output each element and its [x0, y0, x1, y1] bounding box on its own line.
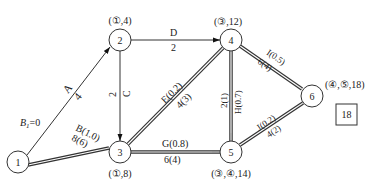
edge-b-labels: B(1.0) 8(6) [70, 122, 102, 150]
edge-a-duration: 4 [71, 90, 84, 102]
edge-g-duration: 6(4) [164, 154, 181, 166]
node-1-annotation: B1=0 [20, 117, 40, 130]
edge-g-name: G(0.8) [162, 138, 188, 150]
network-diagram: A 4 B(1.0) 8(6) 2 C D 2 E(0.2) 4(3) G(0.… [0, 0, 380, 190]
node-5-label: 5 [229, 147, 234, 158]
edge-d-name: D [170, 27, 177, 38]
node-5-annotation: (③,④,14) [211, 168, 251, 180]
edge-h: 2(1) H(0.7) [219, 51, 243, 141]
edge-g: G(0.8) 6(4) [131, 138, 220, 166]
edge-c: 2 C [107, 51, 132, 141]
node-4-label: 4 [229, 35, 234, 46]
edge-c-duration: 2 [107, 92, 118, 97]
node-3-annotation: (①,8) [108, 168, 131, 180]
node-4: 4 [220, 29, 242, 51]
edge-c-name: C [121, 90, 132, 97]
edge-d-duration: 2 [171, 42, 176, 53]
node-3: 3 [109, 141, 131, 163]
edge-i: I(0.5) 6(4) [240, 46, 302, 89]
node-1: 1 [7, 151, 29, 173]
node-2-label: 2 [118, 35, 123, 46]
node-2-annotation: (①,4) [108, 15, 131, 27]
node-4-annotation: (③,12) [214, 16, 242, 28]
edge-h-name: H(0.7) [233, 90, 243, 114]
edge-j: J(0.2) 4(2) [240, 103, 303, 145]
total-duration-box: 18 [336, 104, 357, 125]
edge-e: E(0.2) 4(3) [128, 48, 223, 144]
node-6-annotation: (④,⑤,18) [325, 79, 365, 91]
node-6: 6 [301, 85, 323, 107]
edge-d: D 2 [131, 27, 220, 53]
edge-h-duration: 2(1) [219, 93, 229, 108]
edge-b [28, 148, 109, 165]
node-3-label: 3 [118, 147, 123, 158]
node-5: 5 [220, 141, 242, 163]
node-2: 2 [109, 29, 131, 51]
node-1-label: 1 [16, 157, 21, 168]
total-duration-value: 18 [342, 109, 352, 120]
node-6-label: 6 [310, 91, 315, 102]
